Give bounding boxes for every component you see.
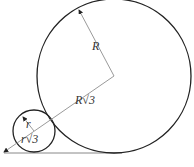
label-small-distance: r√3	[21, 132, 38, 146]
label-small-radius: r	[26, 117, 31, 131]
label-big-radius: R	[91, 39, 100, 53]
label-center-distance: R√3	[74, 93, 95, 107]
tangent-circles-diagram: R R√3 r r√3	[0, 0, 194, 167]
